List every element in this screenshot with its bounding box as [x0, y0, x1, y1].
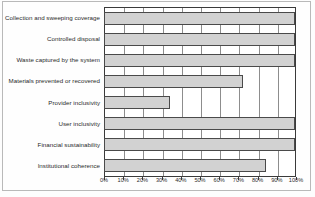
value-axis-tick-label: 40%: [175, 178, 186, 184]
category-label: Materials prevented or recovered: [2, 71, 103, 92]
category-label: Controlled disposal: [2, 28, 103, 49]
value-axis-tick-label: 0%: [100, 178, 108, 184]
category-label: Financial sustainability: [2, 135, 103, 156]
bar[interactable]: [104, 159, 266, 172]
value-axis-tick-label: 70%: [233, 178, 244, 184]
category-label: Institutional coherence: [2, 156, 103, 177]
bar[interactable]: [104, 54, 295, 67]
value-axis-tick-label: 30%: [156, 178, 167, 184]
category-label: Collection and sweeping coverage: [2, 7, 103, 28]
value-axis-tick-label: 50%: [194, 178, 205, 184]
bar-row: [105, 134, 295, 155]
value-axis-tick-label: 20%: [137, 178, 148, 184]
bar-row: [105, 92, 295, 113]
bar-row: [105, 50, 295, 71]
category-label: Waste captured by the system: [2, 50, 103, 71]
figure: Collection and sweeping coverage Control…: [0, 0, 315, 197]
bar-row: [105, 8, 295, 29]
value-axis-tick-label: 60%: [214, 178, 225, 184]
value-axis-tick-label: 10%: [118, 178, 129, 184]
category-axis-labels: Collection and sweeping coverage Control…: [2, 7, 103, 177]
bar-row: [105, 71, 295, 92]
category-label: Provider inclusivity: [2, 92, 103, 113]
bar[interactable]: [104, 96, 170, 109]
value-axis-tick-label: 100%: [289, 178, 303, 184]
bar[interactable]: [104, 117, 295, 130]
bar[interactable]: [104, 138, 295, 151]
bar-row: [105, 113, 295, 134]
plot-area: [104, 7, 296, 177]
bar[interactable]: [104, 12, 295, 25]
bar[interactable]: [104, 75, 243, 88]
value-axis-tick-label: 80%: [252, 178, 263, 184]
category-label: User inclusivity: [2, 113, 103, 134]
bar-row: [105, 155, 295, 176]
bar-series: [105, 8, 295, 176]
value-axis-ticks: 0%10%20%30%40%50%60%70%80%90%100%: [104, 178, 296, 190]
bar-row: [105, 29, 295, 50]
value-axis-tick-label: 90%: [271, 178, 282, 184]
bar-chart: Collection and sweeping coverage Control…: [0, 0, 315, 197]
bar[interactable]: [104, 33, 295, 46]
